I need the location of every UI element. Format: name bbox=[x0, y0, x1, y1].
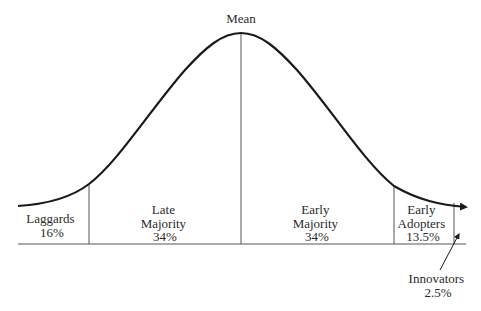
early-majority-label: Early Majority 34% bbox=[293, 202, 342, 244]
late-majority-label: Late Majority 34% bbox=[141, 202, 190, 244]
bell-curve bbox=[18, 33, 466, 207]
early-adopters-label: Early Adopters 13.5% bbox=[398, 202, 449, 244]
innovators-pointer-arrow bbox=[440, 234, 459, 270]
innovators-label: Innovators 2.5% bbox=[409, 271, 468, 300]
laggards-label: Laggards 16% bbox=[26, 211, 78, 240]
mean-label: Mean bbox=[226, 11, 256, 26]
adoption-curve-diagram: Mean Laggards 16% Late Majority 34% Earl… bbox=[0, 0, 481, 311]
